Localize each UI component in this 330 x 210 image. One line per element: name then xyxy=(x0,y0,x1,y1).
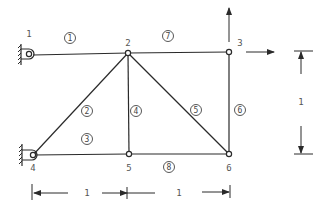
member-label-5: 5 xyxy=(191,105,202,116)
node-label-1: 1 xyxy=(26,29,31,39)
node-label-4: 4 xyxy=(30,163,35,173)
member-4 xyxy=(128,53,129,154)
svg-text:2: 2 xyxy=(85,107,90,116)
node-3 xyxy=(226,49,231,54)
horizontal-dimension: 1 1 xyxy=(32,184,230,200)
member-label-1: 1 xyxy=(65,33,76,44)
member-label-7: 7 xyxy=(163,31,174,42)
member-5 xyxy=(128,53,229,154)
svg-text:7: 7 xyxy=(166,32,171,41)
vertical-dimension-label: 1 xyxy=(298,97,303,107)
member-label-3: 3 xyxy=(82,134,93,145)
svg-text:1: 1 xyxy=(68,34,73,43)
node-2 xyxy=(125,50,130,55)
member-7 xyxy=(128,52,229,53)
svg-text:6: 6 xyxy=(238,106,243,115)
svg-text:5: 5 xyxy=(194,106,199,115)
member-2 xyxy=(33,53,128,155)
vertical-dimension: 1 xyxy=(294,51,313,154)
node-label-3: 3 xyxy=(237,38,242,48)
svg-text:3: 3 xyxy=(85,135,90,144)
member-3 xyxy=(33,154,129,155)
horizontal-dimension-left-label: 1 xyxy=(84,188,89,198)
member-label-8: 8 xyxy=(164,162,175,173)
node-5 xyxy=(126,151,131,156)
node-6 xyxy=(226,151,231,156)
member-label-2: 2 xyxy=(82,106,93,117)
node-label-2: 2 xyxy=(125,38,130,48)
horizontal-dimension-right-label: 1 xyxy=(176,188,181,198)
member-label-6: 6 xyxy=(235,105,246,116)
svg-text:4: 4 xyxy=(134,107,139,116)
member-1 xyxy=(33,53,128,55)
node-label-6: 6 xyxy=(226,163,231,173)
pin-support-node-1 xyxy=(18,44,34,65)
node-label-5: 5 xyxy=(126,163,131,173)
svg-text:8: 8 xyxy=(167,163,172,172)
member-label-4: 4 xyxy=(131,106,142,117)
truss-diagram: 1 2 3 4 5 6 1 2 3 4 5 6 7 8 xyxy=(0,0,330,210)
